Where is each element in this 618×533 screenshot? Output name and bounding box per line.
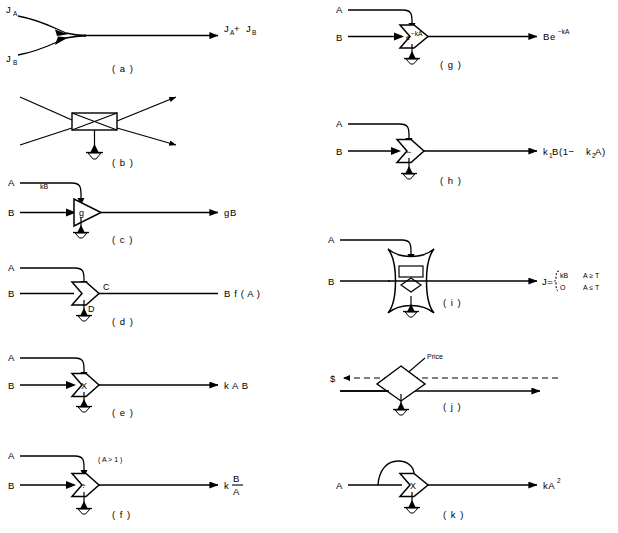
output-condition-2-i: A ≤ T <box>583 284 600 291</box>
input-label-jb-main: J <box>6 53 11 64</box>
output-label-h-tail: A) <box>595 146 606 157</box>
price-label-j: Price <box>427 353 443 360</box>
output-lead-i: J= <box>542 276 554 287</box>
input-label-ja-sub: A <box>13 10 18 17</box>
input-label-d-a: A <box>8 262 15 273</box>
merge-curve-bottom <box>66 36 86 38</box>
node-label-c-d: C <box>103 282 110 292</box>
input-label-e-a: A <box>8 352 15 363</box>
input-label-i-b: B <box>328 276 335 287</box>
panel-e: A B X k A B ( e ) <box>8 352 249 418</box>
input-label-h-b: B <box>336 146 343 157</box>
output-label-f-denominator: A <box>233 486 240 497</box>
flow-line-ja <box>18 16 66 33</box>
bullet-shape-d <box>72 282 99 305</box>
multiplier-inner-label-k: X <box>410 481 416 491</box>
input-label-g-b: B <box>336 32 343 43</box>
money-label-j: $ <box>330 373 336 384</box>
switch-inner-rectangle-i <box>399 266 423 277</box>
output-label-f-numerator: B <box>233 473 240 484</box>
input-label-c-b: B <box>8 207 15 218</box>
input-label-c-a: A <box>8 177 15 188</box>
output-label-h-k1: k <box>543 146 548 157</box>
output-value-1-i: kB <box>560 272 569 279</box>
output-label-h-b: B(1− <box>552 146 575 157</box>
flow-arrowhead-g <box>394 33 404 41</box>
output-label-c: gB <box>224 207 237 218</box>
control-line-c <box>20 183 81 200</box>
output-value-2-i: O <box>560 284 566 291</box>
divider-inner-label-f: ÷ <box>81 481 86 491</box>
amplifier-inner-label-c: g <box>79 208 84 218</box>
brace-i <box>555 271 560 291</box>
exp-inner-exponent-g: −kA <box>411 30 423 37</box>
output-label-a-plus: + <box>234 23 240 34</box>
panel-h: A B − k 1 B(1− k 2 A) ( h ) <box>336 118 606 186</box>
input-label-f-a: A <box>8 450 15 461</box>
flow-in-b-top <box>20 97 72 120</box>
arrowhead-jb <box>55 36 68 45</box>
output-label-h-k2: k <box>586 146 591 157</box>
panel-label-c: ( c ) <box>112 234 133 245</box>
flow-out-b-bottom <box>117 128 176 145</box>
output-label-k-exponent: 2 <box>557 477 561 484</box>
output-label-k-base: kA <box>543 480 555 491</box>
panel-c: A B kB g gB ( c ) <box>8 177 237 245</box>
panel-label-k: ( k ) <box>443 509 464 520</box>
panel-label-b: ( b ) <box>112 157 134 168</box>
control-line-e <box>20 358 84 374</box>
panel-label-f: ( f ) <box>112 509 131 520</box>
panel-a: J A J B J A + J B ( a ) <box>6 4 256 74</box>
flow-in-b-bottom <box>20 128 72 145</box>
output-label-a-j2: J <box>246 23 251 34</box>
control-label-c: kB <box>40 183 49 190</box>
panel-label-j: ( j ) <box>443 401 462 412</box>
output-label-a-j1: J <box>224 23 229 34</box>
input-label-h-a: A <box>336 118 343 129</box>
panel-j: $ Price ( j ) <box>330 353 560 415</box>
input-label-jb-sub: B <box>13 59 17 66</box>
exp-inner-base-g: e <box>406 34 410 41</box>
panel-k: A X kA 2 ( k ) <box>336 461 561 520</box>
panel-i: A B J= kB O A ≥ T A ≤ T ( i ) <box>328 234 600 317</box>
control-line-h <box>348 124 409 140</box>
control-label-f: ( A > 1 ) <box>98 456 122 464</box>
output-label-e: k A B <box>224 380 249 391</box>
input-label-e-b: B <box>8 380 15 391</box>
input-label-g-a: A <box>336 4 343 15</box>
multiplier-inner-label-e: X <box>81 381 87 391</box>
panel-f: A B ( A > 1 ) ÷ k B A ( f ) <box>8 450 243 520</box>
panel-b: ( b ) <box>20 97 176 168</box>
figure-canvas: J A J B J A + J B ( a ) ( b ) <box>0 0 618 533</box>
panel-label-g: ( g ) <box>440 59 462 70</box>
input-label-k-a: A <box>336 480 343 491</box>
flow-arrowhead-h <box>391 147 401 155</box>
flow-out-b-top <box>117 97 176 121</box>
input-label-i-a: A <box>328 234 335 245</box>
minus-inner-label-h: − <box>406 147 411 157</box>
output-condition-1-i: A ≥ T <box>583 272 600 279</box>
panel-label-e: ( e ) <box>112 407 134 418</box>
output-label-d: B f ( A ) <box>224 288 261 299</box>
input-label-ja-main: J <box>6 4 11 15</box>
output-label-f-k: k <box>224 480 229 491</box>
flow-arrowhead-e <box>66 381 76 389</box>
ground-symbol-b <box>86 130 103 159</box>
control-line-i <box>340 240 411 256</box>
control-line-d <box>20 268 84 283</box>
node-label-d-d: D <box>88 304 95 314</box>
control-line-g <box>348 10 412 25</box>
output-label-a-s2: B <box>252 29 256 36</box>
panel-label-i: ( i ) <box>443 297 462 308</box>
output-label-g-base: Be <box>543 31 556 42</box>
output-label-g-exponent: −kA <box>558 28 570 35</box>
panel-label-a: ( a ) <box>112 63 134 74</box>
input-label-f-b: B <box>8 480 15 491</box>
panel-d: A B C D B f ( A ) ( d ) <box>8 262 261 327</box>
flow-arrowhead-f <box>66 481 76 489</box>
panel-label-h: ( h ) <box>440 175 462 186</box>
input-label-d-b: B <box>8 288 15 299</box>
control-line-f <box>20 456 84 472</box>
panel-label-d: ( d ) <box>112 316 134 327</box>
panel-g: A B e −kA Be −kA ( g ) <box>336 4 570 70</box>
